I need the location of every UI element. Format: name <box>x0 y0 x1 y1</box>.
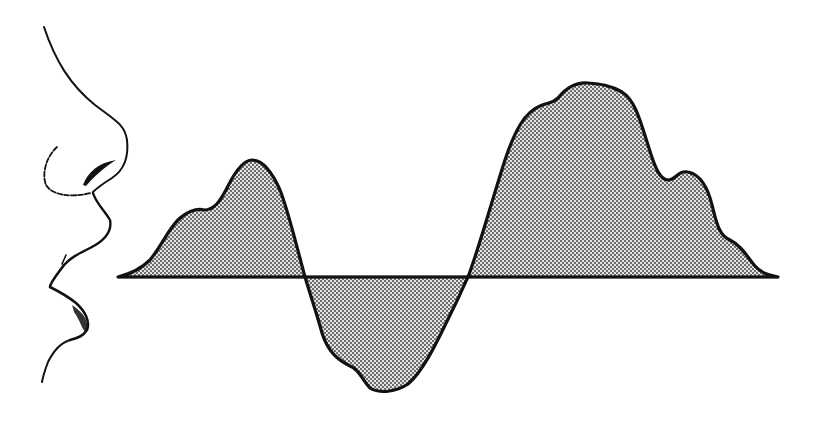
negative-lobe <box>305 277 468 391</box>
nose-bridge <box>44 27 127 192</box>
face-profile <box>42 27 127 382</box>
sound-wave-illustration <box>0 0 814 424</box>
positive-lobe-1 <box>118 160 305 277</box>
nostril-outline <box>44 147 91 195</box>
positive-lobe-2 <box>468 83 778 277</box>
waveform <box>118 83 778 392</box>
lower-lip-shade <box>72 305 87 332</box>
lower-lip <box>50 265 88 340</box>
nostril <box>83 160 116 186</box>
upper-lip <box>64 193 110 265</box>
chin <box>42 340 70 382</box>
